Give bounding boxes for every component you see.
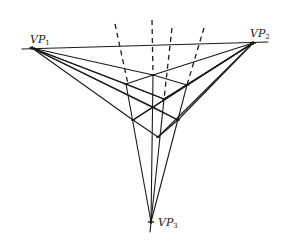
vp1-label: VP1 — [30, 34, 50, 47]
cube-edge — [133, 107, 153, 120]
horizon-line — [22, 42, 268, 49]
perspective-diagram: VP1 VP2 VP3 — [0, 0, 288, 251]
vp2-label: VP2 — [250, 28, 270, 41]
cube-edge — [126, 75, 153, 84]
vp2-ray — [158, 43, 253, 137]
cube-edge — [133, 120, 158, 137]
cube-edge — [153, 107, 178, 120]
construction-dashed-line — [152, 20, 153, 75]
vp3-label: VP3 — [158, 217, 178, 230]
construction-dashed-line — [164, 28, 172, 99]
construction-dashed-line — [115, 24, 128, 84]
cube-edge — [153, 75, 187, 85]
vp3-ray — [151, 75, 153, 222]
